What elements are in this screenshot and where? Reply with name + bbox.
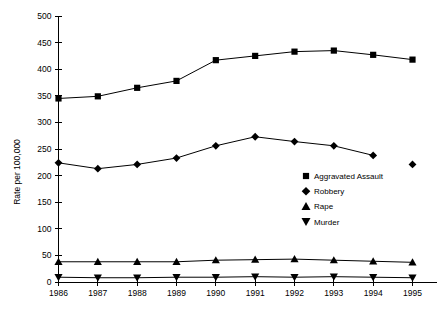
series-rape [54,255,416,265]
y-tick-label: 400 [37,64,51,74]
series-line [59,277,413,278]
legend: Aggravated AssaultRobberyRapeMurder [302,172,384,227]
chart-canvas: 0501001502002503003504004505001986198719… [0,0,443,309]
y-tick-label: 150 [37,197,51,207]
data-point-marker [369,151,377,159]
legend-marker-triangle-down [302,218,311,226]
legend-label: Aggravated Assault [314,172,384,181]
legend-label: Murder [314,218,340,227]
legend-item: Aggravated Assault [303,172,384,181]
series-aggravated-assault [55,47,415,101]
series-line [59,259,413,262]
legend-marker-triangle-up [302,202,311,210]
y-tick-label: 100 [37,224,51,234]
data-point-marker [94,165,102,173]
y-tick-label: 0 [47,277,52,287]
data-point-marker [213,57,219,63]
x-tick-label: 1993 [324,288,343,298]
data-point-marker [291,138,299,146]
series-line [59,51,413,99]
series-group [54,47,416,281]
data-point-marker [409,57,415,63]
data-point-marker [291,49,297,55]
series-line [59,137,374,169]
legend-item: Robbery [302,187,345,196]
line-chart: 0501001502002503003504004505001986198719… [0,0,443,309]
x-tick-label: 1994 [364,288,383,298]
x-tick-label: 1987 [88,288,107,298]
data-point-marker [55,159,63,167]
data-point-marker [55,95,61,101]
legend-marker-square [303,173,309,179]
axes: 0501001502002503003504004505001986198719… [37,11,437,298]
data-point-marker [212,142,220,150]
y-tick-label: 50 [42,250,52,260]
y-tick-label: 300 [37,117,51,127]
y-axis-title: Rate per 100,000 [12,139,22,205]
y-tick-label: 500 [37,11,51,21]
data-point-marker [173,154,181,162]
legend-label: Rape [314,202,334,211]
series-robbery [55,133,417,173]
y-tick-label: 350 [37,91,51,101]
data-point-marker [95,93,101,99]
data-point-marker [409,161,417,169]
series-murder [54,274,416,282]
x-tick-label: 1990 [206,288,225,298]
data-point-marker [252,53,258,59]
legend-item: Murder [302,218,340,227]
x-tick-label: 1989 [167,288,186,298]
x-tick-label: 1992 [285,288,304,298]
data-point-marker [134,85,140,91]
legend-label: Robbery [314,187,344,196]
y-tick-label: 200 [37,171,51,181]
x-tick-label: 1988 [128,288,147,298]
y-tick-label: 450 [37,38,51,48]
legend-item: Rape [302,202,334,211]
data-point-marker [370,52,376,58]
legend-marker-diamond [302,187,311,196]
data-point-marker [251,133,259,141]
data-point-marker [133,161,141,169]
y-tick-label: 250 [37,144,51,154]
x-tick-label: 1991 [246,288,265,298]
data-point-marker [173,78,179,84]
x-tick-label: 1995 [403,288,422,298]
data-point-marker [331,47,337,53]
data-point-marker [330,142,338,150]
x-tick-label: 1986 [49,288,68,298]
